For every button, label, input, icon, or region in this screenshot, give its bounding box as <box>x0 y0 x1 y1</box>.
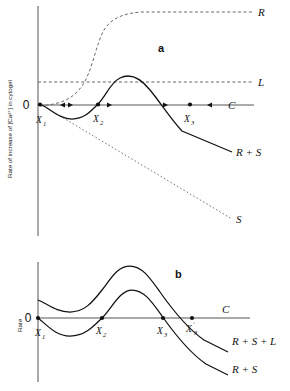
panel-a-curve-label-C: C <box>228 99 236 111</box>
panel-b-curve-label-RS: R + S <box>231 363 258 375</box>
panel-b-point-X3prime <box>190 316 194 320</box>
panel-a-label-X2-base: X <box>92 114 100 124</box>
panel-b-label-X1-base: X <box>34 328 42 338</box>
panel-b-curve-RS <box>38 290 228 375</box>
panel-b-curve-label-RSL: R + S + L <box>231 335 276 347</box>
panel-a: Rate of increase of [Ca²⁺] in cytogel 0 … <box>6 6 265 236</box>
panel-b-label-X3-base: X <box>156 326 164 336</box>
panel-b-label-X2: X 2 <box>95 326 107 338</box>
panel-a-curve-label-R: R <box>257 6 265 18</box>
panel-a-label-X2-sub: 2 <box>100 119 104 126</box>
panel-a-label-X1-sub: 1 <box>43 120 46 127</box>
panel-a-ylabel: Rate of increase of [Ca²⁺] in cytogel <box>6 80 13 178</box>
panel-b: Rate 0 b X 1 X 2 X 3 X <box>16 262 276 382</box>
panel-a-flow-arrow-2 <box>107 102 112 107</box>
panel-a-label-X1-base: X <box>35 115 43 125</box>
panel-b-origin-label: 0 <box>25 311 32 325</box>
panel-b-label-X3prime-base: X <box>185 324 193 334</box>
figure-root: Rate of increase of [Ca²⁺] in cytogel 0 … <box>0 0 290 391</box>
panel-a-flow-arrow-5 <box>207 102 212 107</box>
panel-a-point-X1 <box>38 102 42 106</box>
panel-a-point-X2 <box>96 102 100 106</box>
panel-b-label-X1: X 1 <box>34 328 45 340</box>
panel-b-curve-RSL <box>38 266 228 352</box>
panel-a-flow-arrow-3 <box>163 102 168 107</box>
panel-a-curve-label-S: S <box>236 213 242 225</box>
figure-svg: Rate of increase of [Ca²⁺] in cytogel 0 … <box>0 0 290 391</box>
panel-a-label-X3-base: X <box>183 114 191 124</box>
panel-a-label-X2: X 2 <box>92 114 104 126</box>
panel-a-point-X3 <box>188 102 192 106</box>
panel-b-id: b <box>175 268 182 280</box>
panel-a-curve-R <box>40 12 252 106</box>
panel-b-ylabel: Rate <box>16 318 23 332</box>
panel-a-curve-label-RS: R + S <box>235 146 262 158</box>
panel-a-label-X3-sub: 3 <box>190 119 195 126</box>
panel-b-label-X3prime: X ʹ 3 <box>185 321 198 336</box>
panel-a-curve-label-L: L <box>257 76 264 88</box>
panel-a-label-X3: X 3 <box>183 114 195 126</box>
panel-a-curve-S <box>40 104 232 219</box>
panel-b-point-X2 <box>100 316 104 320</box>
panel-a-flow-arrow-1 <box>68 102 73 107</box>
panel-b-label-X2-base: X <box>95 326 103 336</box>
panel-b-label-X1-sub: 1 <box>42 333 45 340</box>
panel-b-label-X3prime-mark: ʹ <box>193 321 195 328</box>
panel-a-id: a <box>158 42 165 54</box>
panel-b-point-X1 <box>36 316 40 320</box>
panel-b-label-X3: X 3 <box>156 326 168 338</box>
panel-a-curve-RS <box>40 76 232 152</box>
panel-b-point-X3 <box>161 316 165 320</box>
panel-b-label-X3-sub: 3 <box>163 331 168 338</box>
panel-a-origin-label: 0 <box>23 98 30 112</box>
panel-a-flow-arrow-4 <box>60 102 65 107</box>
panel-a-label-X1: X 1 <box>35 115 46 127</box>
panel-b-label-X2-sub: 2 <box>103 331 107 338</box>
panel-b-curve-label-C: C <box>222 303 230 315</box>
